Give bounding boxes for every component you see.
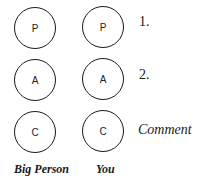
column-label-you: You [96, 162, 115, 177]
big-person-adult-circle: A [14, 59, 56, 101]
big-person-parent-circle: P [14, 7, 56, 49]
circle-letter: P [32, 23, 39, 34]
row-label-2: 2. [139, 67, 150, 83]
you-child-circle: C [82, 110, 124, 152]
you-adult-circle: A [82, 58, 124, 100]
circle-letter: C [99, 126, 106, 137]
circle-letter: P [100, 22, 107, 33]
circle-letter: A [100, 74, 107, 85]
row-label-1: 1. [139, 14, 150, 30]
you-parent-circle: P [82, 6, 124, 48]
column-label-big-person: Big Person [14, 162, 69, 177]
circle-letter: A [32, 75, 39, 86]
circle-letter: C [31, 127, 38, 138]
row-label-comment: Comment [138, 122, 192, 138]
big-person-child-circle: C [14, 111, 56, 153]
